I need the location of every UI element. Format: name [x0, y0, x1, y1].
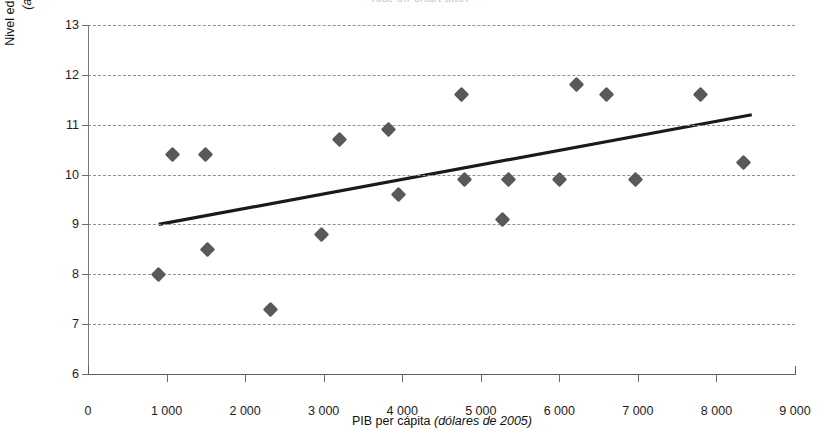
x-tick-6000	[559, 374, 560, 382]
y-tick-label-6: 6	[72, 367, 79, 381]
y-tick-11	[82, 125, 89, 126]
y-axis-title-line1: Nivel educativo de la PEA urbana	[3, 0, 17, 46]
x-tick-2000	[245, 374, 246, 382]
gridline-y-9	[88, 224, 795, 225]
x-axis-title-italic: (dólares de 2005)	[434, 414, 532, 428]
chart-figure: (cut-off chart title) 67891011121301 000…	[0, 0, 840, 444]
gridline-y-7	[88, 324, 795, 325]
chart-title-fragment: (cut-off chart title)	[0, 0, 840, 2]
data-point	[736, 154, 752, 170]
x-axis-title-plain: PIB per cápita	[352, 414, 431, 428]
y-tick-12	[82, 75, 89, 76]
gridline-y-10	[88, 175, 795, 176]
y-tick-13	[82, 25, 89, 26]
y-tick-6	[82, 374, 89, 375]
data-point	[151, 267, 167, 283]
y-tick-9	[82, 224, 89, 225]
data-point	[569, 77, 585, 93]
y-axis-title: Nivel educativo de la PEA urbana (años d…	[2, 0, 36, 78]
y-tick-label-10: 10	[65, 168, 79, 182]
x-tick-1000	[167, 374, 168, 382]
trendline	[88, 25, 795, 374]
data-point	[453, 87, 469, 103]
x-axis-right-cap	[795, 366, 796, 375]
x-tick-3000	[324, 374, 325, 382]
x-axis-line	[88, 374, 796, 375]
data-point	[332, 132, 348, 148]
data-point	[391, 187, 407, 203]
y-tick-label-11: 11	[66, 118, 79, 132]
y-tick-label-9: 9	[72, 217, 79, 231]
gridline-y-11	[88, 125, 795, 126]
data-point	[200, 242, 216, 258]
y-tick-7	[82, 324, 89, 325]
y-tick-label-13: 13	[65, 18, 79, 32]
x-tick-8000	[716, 374, 717, 382]
gridline-y-13	[88, 25, 795, 26]
plot-area: 67891011121301 0002 0003 0004 0005 0006 …	[88, 25, 795, 374]
gridline-y-8	[88, 274, 795, 275]
y-tick-label-12: 12	[65, 68, 79, 82]
gridline-y-12	[88, 75, 795, 76]
data-point	[599, 87, 615, 103]
x-tick-4000	[402, 374, 403, 382]
y-tick-label-8: 8	[72, 267, 79, 281]
y-axis-title-line2: (años de educación)	[20, 0, 34, 10]
data-point	[314, 227, 330, 243]
x-tick-7000	[638, 374, 639, 382]
data-point	[198, 147, 214, 163]
data-point	[693, 87, 709, 103]
data-point	[165, 147, 181, 163]
y-tick-10	[82, 175, 89, 176]
data-point	[262, 301, 278, 317]
y-tick-8	[82, 274, 89, 275]
x-axis-title: PIB per cápita (dólares de 2005)	[88, 414, 796, 428]
x-tick-5000	[481, 374, 482, 382]
y-tick-label-7: 7	[72, 317, 79, 331]
